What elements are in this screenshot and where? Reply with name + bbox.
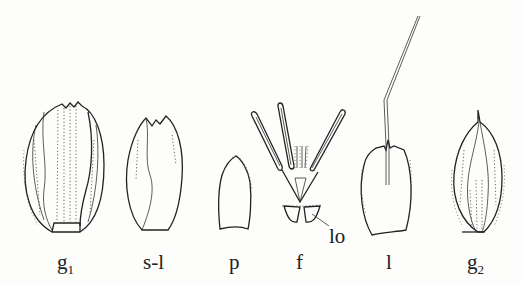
spikelet-drawing	[0, 0, 522, 285]
label-palea: p	[229, 252, 240, 273]
label-flower: f	[296, 252, 303, 273]
label-sterile-lemma: s-l	[143, 252, 164, 273]
sterile-lemma-drawing	[127, 116, 183, 230]
label-lodicules: lo	[329, 226, 345, 247]
palea-drawing	[219, 155, 252, 229]
lower-glume-drawing	[24, 102, 104, 232]
botanical-figure: g1 s-l p f lo l g2	[0, 0, 522, 285]
label-lemma: l	[386, 252, 392, 273]
label-g1: g1	[57, 252, 74, 276]
lemma-drawing	[361, 16, 420, 235]
label-g2: g2	[467, 252, 484, 276]
flower-drawing	[251, 103, 345, 226]
upper-glume-drawing	[451, 110, 504, 232]
